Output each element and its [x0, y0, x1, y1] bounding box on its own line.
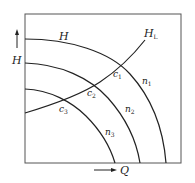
system-curve-hl — [25, 40, 145, 113]
curve-h-label: H — [58, 30, 69, 43]
intersection-label-c2: c2 — [87, 88, 96, 99]
x-axis-label: Q — [120, 164, 129, 177]
diagram-canvas: H Q H HL n1 n2 n3 c1 c2 c3 — [0, 0, 195, 183]
plot-frame — [25, 14, 181, 163]
y-axis-label: H — [11, 54, 22, 67]
system-curve-label: HL — [143, 27, 158, 40]
intersection-label-c1: c1 — [113, 69, 122, 80]
y-axis-arrow-icon — [15, 29, 19, 35]
x-axis-arrow-icon — [111, 168, 117, 172]
speed-label-n1: n1 — [142, 76, 152, 87]
intersection-label-c3: c3 — [59, 104, 68, 115]
curve-h-n1 — [25, 39, 166, 163]
speed-label-n3: n3 — [105, 127, 115, 138]
curve-n3 — [25, 89, 115, 163]
speed-label-n2: n2 — [125, 104, 135, 115]
